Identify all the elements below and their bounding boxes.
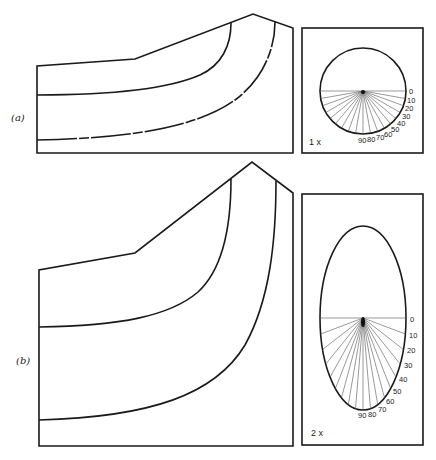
angle-label-20: 20 [407,346,415,355]
panel-b-scale-label: 2 x [311,428,324,438]
angle-label-50: 50 [393,387,401,396]
angle-label-40: 40 [399,375,407,384]
angle-label-0: 0 [410,315,414,324]
angle-label-60: 60 [386,397,394,406]
panel-b-center-point [361,317,365,327]
angle-label-80: 80 [368,410,376,419]
angle-label-90: 90 [358,411,366,420]
panel-b: (b) [16,162,423,446]
angle-label-70: 70 [378,405,386,414]
angle-label-80: 80 [367,135,375,144]
angle-label-10: 10 [409,331,417,340]
panel-a-label: (a) [11,112,25,123]
angle-label-0: 0 [409,87,413,96]
strain-diagram: (a) [0,0,436,460]
panel-b-label: (b) [16,355,30,366]
panel-a-block-outline [37,14,293,153]
angle-label-90: 90 [358,136,366,145]
panel-b-block-outline [39,162,293,446]
angle-label-30: 30 [404,361,412,370]
panel-a: (a) [11,14,423,153]
panel-a-center-point [361,90,365,94]
panel-a-scale-label: 1 x [309,137,322,147]
panel-b-layer-curve-2 [39,181,276,420]
angle-label-60: 60 [384,130,392,139]
angle-label-70: 70 [376,133,384,142]
panel-a-layer-curve-2 [37,22,275,140]
